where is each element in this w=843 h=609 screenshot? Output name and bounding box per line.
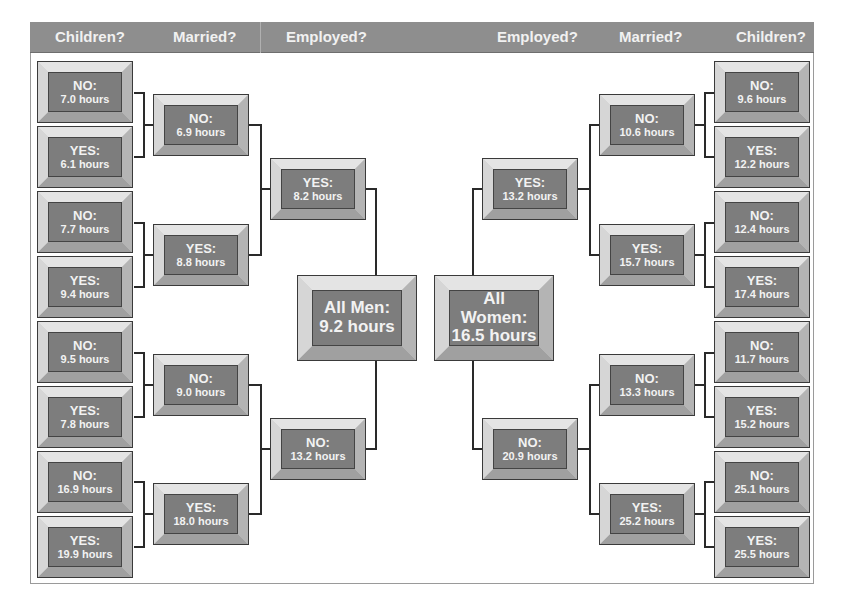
node-label: YES:: [70, 404, 100, 418]
node-label: YES:: [515, 176, 545, 190]
node-label: YES:: [70, 534, 100, 548]
men-employed-node: YES:8.2 hours: [270, 158, 366, 220]
header-employed-left: Employed?: [286, 28, 367, 45]
women-children-node: YES:15.2 hours: [714, 386, 810, 448]
node-label: NO:: [73, 209, 97, 223]
connector: [704, 352, 714, 354]
connector: [589, 384, 591, 515]
men-children-node: YES:7.8 hours: [37, 386, 133, 448]
men-married-node: NO:9.0 hours: [153, 354, 249, 416]
men-children-node: NO:7.7 hours: [37, 191, 133, 253]
diagram-frame: [30, 22, 814, 584]
connector: [375, 188, 377, 275]
women-married-node: NO:13.3 hours: [599, 354, 695, 416]
node-value: 12.4 hours: [734, 223, 789, 235]
node-label: NO:: [189, 372, 213, 386]
node-label: YES:: [747, 274, 777, 288]
node-value: 9.0 hours: [177, 386, 226, 398]
header-bar: Children? Married? Employed? Employed? M…: [30, 22, 814, 53]
men-root-node: All Men:9.2 hours: [297, 275, 417, 361]
node-value: 15.7 hours: [619, 256, 674, 268]
node-label: NO:: [750, 469, 774, 483]
connector: [704, 352, 706, 418]
node-value: 8.8 hours: [177, 256, 226, 268]
women-children-node: NO:12.4 hours: [714, 191, 810, 253]
connector: [704, 416, 714, 418]
node-label: YES:: [747, 144, 777, 158]
connector: [704, 481, 706, 548]
node-label: All Men:: [324, 299, 390, 318]
header-employed-right: Employed?: [497, 28, 578, 45]
node-value: 7.0 hours: [61, 93, 110, 105]
node-label: YES:: [186, 242, 216, 256]
node-value: 6.1 hours: [61, 158, 110, 170]
header-children-right: Children?: [736, 28, 806, 45]
node-value: 16.9 hours: [57, 483, 112, 495]
node-value: 16.5 hours: [451, 327, 536, 346]
node-value: 7.8 hours: [61, 418, 110, 430]
node-label: YES:: [747, 534, 777, 548]
header-married-right: Married?: [619, 28, 682, 45]
node-value: 12.2 hours: [734, 158, 789, 170]
header-children-left: Children?: [55, 28, 125, 45]
node-value: 25.1 hours: [734, 483, 789, 495]
connector: [472, 360, 474, 450]
women-children-node: NO:25.1 hours: [714, 451, 810, 513]
connector: [704, 222, 714, 224]
connector: [260, 124, 262, 256]
connector: [375, 360, 377, 450]
node-value: 13.2 hours: [502, 190, 557, 202]
women-root-node: All Women:16.5 hours: [434, 275, 554, 361]
connector: [143, 124, 153, 126]
connector: [704, 92, 706, 158]
men-children-node: YES:9.4 hours: [37, 256, 133, 318]
node-value: 9.2 hours: [319, 318, 395, 337]
node-value: 20.9 hours: [502, 450, 557, 462]
women-employed-node: YES:13.2 hours: [482, 158, 578, 220]
connector: [143, 384, 153, 386]
node-value: 25.2 hours: [619, 515, 674, 527]
women-children-node: YES:12.2 hours: [714, 126, 810, 188]
node-label: YES:: [303, 176, 333, 190]
men-employed-node: NO:13.2 hours: [270, 418, 366, 480]
node-label: NO:: [189, 112, 213, 126]
node-value: 9.5 hours: [61, 353, 110, 365]
women-children-node: YES:17.4 hours: [714, 256, 810, 318]
node-value: 17.4 hours: [734, 288, 789, 300]
node-label: YES:: [186, 501, 216, 515]
connector: [472, 188, 474, 275]
node-label: NO:: [518, 436, 542, 450]
node-value: 13.2 hours: [290, 450, 345, 462]
node-value: 7.7 hours: [61, 223, 110, 235]
connector: [704, 481, 714, 483]
node-value: 25.5 hours: [734, 548, 789, 560]
node-value: 19.9 hours: [57, 548, 112, 560]
women-children-node: NO:9.6 hours: [714, 61, 810, 123]
connector: [704, 546, 714, 548]
node-value: 9.4 hours: [61, 288, 110, 300]
node-label: NO:: [73, 79, 97, 93]
men-married-node: YES:8.8 hours: [153, 224, 249, 286]
women-married-node: YES:25.2 hours: [599, 483, 695, 545]
node-label: YES:: [632, 242, 662, 256]
connector: [143, 513, 153, 515]
men-married-node: YES:18.0 hours: [153, 483, 249, 545]
node-value: 8.2 hours: [294, 190, 343, 202]
connector: [143, 254, 153, 256]
node-value: 11.7 hours: [735, 353, 789, 365]
node-value: 6.9 hours: [177, 126, 226, 138]
women-children-node: YES:25.5 hours: [714, 516, 810, 578]
connector: [589, 124, 591, 256]
node-value: 18.0 hours: [173, 515, 228, 527]
men-children-node: NO:7.0 hours: [37, 61, 133, 123]
women-married-node: YES:15.7 hours: [599, 224, 695, 286]
header-married-left: Married?: [173, 28, 236, 45]
node-value: 9.6 hours: [738, 93, 787, 105]
node-label: NO:: [73, 339, 97, 353]
connector: [260, 188, 270, 190]
connector: [704, 92, 714, 94]
women-children-node: NO:11.7 hours: [714, 321, 810, 383]
men-children-node: NO:9.5 hours: [37, 321, 133, 383]
header-divider: [260, 22, 261, 53]
node-label: All Women:: [450, 290, 538, 327]
